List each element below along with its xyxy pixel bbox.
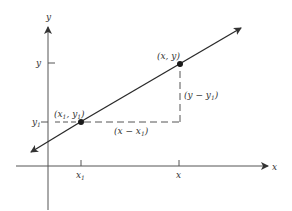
x-axis-label: x	[272, 162, 277, 172]
point-label-x1-y1: (x1, y1)	[54, 109, 85, 120]
x-tick-label-x: x	[176, 170, 181, 180]
point-x-y	[177, 61, 183, 67]
y-tick-label-y: y	[35, 58, 42, 68]
y-axis-label: y	[45, 12, 52, 22]
y-tick-label-y1: y1	[31, 117, 41, 128]
rise-label: (y − y1)	[184, 90, 219, 101]
run-label: (x − x1)	[114, 126, 149, 137]
point-slope-diagram: y x y y1 x1 x (x1, y1) (x, y) (x − x1) (…	[0, 0, 292, 211]
point-label-x-y: (x, y)	[157, 51, 180, 61]
x-tick-label-x1: x1	[76, 170, 85, 181]
